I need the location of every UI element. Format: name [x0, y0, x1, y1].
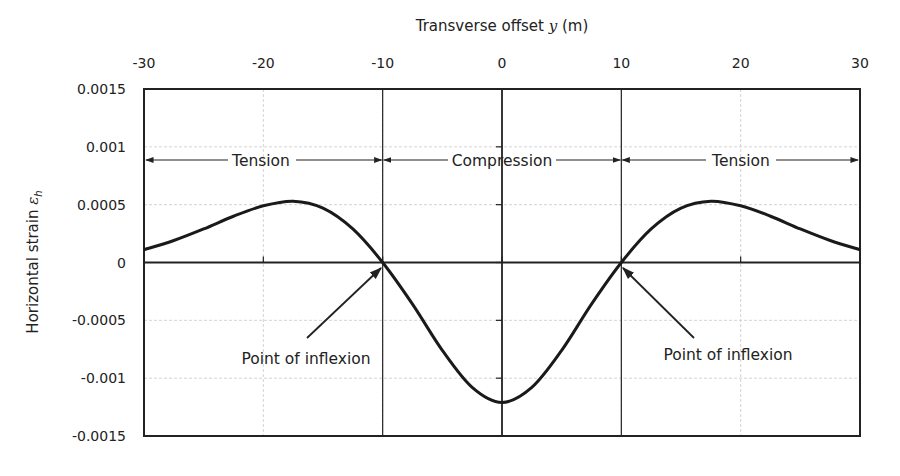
y-axis-title: Horizontal strain εh: [24, 190, 44, 333]
y-tick-label: 0.0015: [77, 81, 126, 97]
inflexion-left-label: Point of inflexion: [241, 350, 370, 368]
inflexion-left-arrow: [307, 268, 381, 338]
y-tick-label: -0.001: [81, 370, 126, 386]
x-tick-label: -10: [371, 55, 394, 71]
x-tick-label: -30: [133, 55, 156, 71]
y-tick-label: 0.001: [86, 139, 126, 155]
tension-right-label: Tension: [711, 152, 770, 170]
x-tick-label: -20: [252, 55, 275, 71]
inflexion-right-label: Point of inflexion: [663, 346, 792, 364]
x-tick-label: 30: [851, 55, 869, 71]
y-tick-labels: 0.00150.0010.00050-0.0005-0.001-0.0015: [72, 81, 126, 444]
x-tick-label: 10: [612, 55, 630, 71]
y-tick-label: 0: [117, 255, 126, 271]
inflexion-right-arrow: [623, 268, 694, 338]
y-tick-label: 0.0005: [77, 197, 126, 213]
x-tick-labels: -30-20-100102030: [133, 55, 869, 71]
x-axis-title: Transverse offset y (m): [415, 17, 589, 35]
strain-chart: -30-20-100102030 0.00150.0010.00050-0.00…: [0, 0, 900, 476]
compression-label: Compression: [452, 152, 553, 170]
x-tick-label: 20: [732, 55, 750, 71]
tension-left-label: Tension: [231, 152, 290, 170]
x-tick-label: 0: [498, 55, 507, 71]
y-tick-label: -0.0015: [72, 428, 126, 444]
y-tick-label: -0.0005: [72, 312, 126, 328]
